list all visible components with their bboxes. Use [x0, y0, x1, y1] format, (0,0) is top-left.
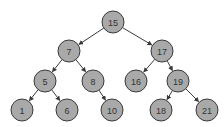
node-label: 7	[66, 47, 71, 57]
node-label: 6	[64, 106, 69, 116]
edge-19-to-21	[186, 89, 199, 102]
tree-node-15: 15	[102, 11, 124, 33]
node-label: 10	[107, 106, 117, 116]
edge-19-to-18	[167, 90, 172, 99]
edge-7-to-8	[76, 60, 86, 72]
edge-17-to-16	[144, 59, 155, 72]
edge-8-to-10	[99, 90, 105, 100]
edge-15-to-7	[79, 28, 104, 44]
tree-node-8: 8	[82, 70, 104, 92]
binary-tree-diagram: 1571758161916101821	[0, 0, 224, 127]
tree-node-19: 19	[167, 70, 189, 92]
tree-node-10: 10	[101, 99, 123, 121]
node-label: 16	[131, 77, 141, 87]
tree-node-5: 5	[34, 70, 56, 92]
tree-node-16: 16	[125, 70, 147, 92]
tree-node-18: 18	[150, 99, 172, 121]
node-label: 17	[157, 47, 167, 57]
node-label: 15	[108, 18, 118, 28]
nodes-group: 1571758161916101821	[11, 11, 218, 121]
tree-node-17: 17	[151, 40, 173, 62]
tree-node-6: 6	[56, 99, 78, 121]
edge-7-to-5	[52, 60, 62, 72]
node-label: 18	[156, 106, 166, 116]
node-label: 19	[173, 77, 183, 87]
edge-5-to-1	[29, 90, 38, 101]
tree-node-1: 1	[11, 99, 33, 121]
edge-5-to-6	[52, 90, 60, 101]
node-label: 5	[42, 77, 47, 87]
node-label: 8	[90, 77, 95, 87]
node-label: 21	[202, 106, 212, 116]
tree-node-21: 21	[196, 99, 218, 121]
edge-15-to-17	[122, 28, 151, 45]
edge-17-to-19	[167, 61, 172, 71]
tree-node-7: 7	[58, 40, 80, 62]
node-label: 1	[19, 106, 24, 116]
